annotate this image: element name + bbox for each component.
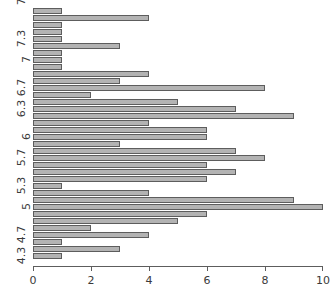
bar <box>33 141 120 147</box>
bar-row <box>33 120 323 126</box>
bar <box>33 85 265 91</box>
bar-row <box>33 71 323 77</box>
bar-row <box>33 169 323 175</box>
bar <box>33 99 178 105</box>
bar-row <box>33 183 323 189</box>
x-tick <box>207 266 208 271</box>
x-tick <box>322 266 323 271</box>
bar <box>33 155 265 161</box>
x-axis-line <box>33 266 323 267</box>
x-tick <box>33 266 34 271</box>
bar-row <box>33 232 323 238</box>
bar-row <box>33 134 323 140</box>
bar <box>33 43 120 49</box>
y-tick-label: 4.3 <box>0 250 30 261</box>
bar-row <box>33 22 323 28</box>
bar-row <box>33 204 323 210</box>
bar <box>33 78 120 84</box>
histogram-chart: 4.34.755.35.766.36.777.37.9 0246810 <box>0 0 336 306</box>
bar <box>33 22 62 28</box>
y-tick-label: 6.3 <box>0 103 30 114</box>
bar-row <box>33 176 323 182</box>
y-tick-label: 7.3 <box>0 33 30 44</box>
bar <box>33 50 62 56</box>
bar <box>33 218 178 224</box>
bar-row <box>33 197 323 203</box>
x-tick-label: 6 <box>204 274 211 287</box>
x-axis: 0246810 <box>33 266 323 306</box>
x-tick <box>91 266 92 271</box>
bar-row <box>33 64 323 70</box>
bar-row <box>33 15 323 21</box>
bar-row <box>33 8 323 14</box>
bar <box>33 197 294 203</box>
bar-row <box>33 239 323 245</box>
bar <box>33 225 91 231</box>
bar <box>33 15 149 21</box>
x-tick-label: 0 <box>30 274 37 287</box>
x-tick <box>149 266 150 271</box>
bar-row <box>33 85 323 91</box>
bar <box>33 134 207 140</box>
bar-row <box>33 106 323 112</box>
bar <box>33 71 149 77</box>
bar <box>33 127 207 133</box>
y-tick-label: 7.9 <box>0 0 30 2</box>
bar <box>33 92 91 98</box>
x-tick-label: 4 <box>146 274 153 287</box>
bar <box>33 169 236 175</box>
x-tick-label: 10 <box>316 274 330 287</box>
bar <box>33 190 149 196</box>
y-tick-label: 5.7 <box>0 152 30 163</box>
bar-row <box>33 99 323 105</box>
bar-row <box>33 162 323 168</box>
bar <box>33 183 62 189</box>
bar-row <box>33 43 323 49</box>
bar-row <box>33 225 323 231</box>
bar-row <box>33 253 323 259</box>
y-axis: 4.34.755.35.766.36.777.37.9 <box>0 0 33 306</box>
bar <box>33 246 120 252</box>
bar-row <box>33 127 323 133</box>
bar-row <box>33 36 323 42</box>
bar-row <box>33 113 323 119</box>
bar-row <box>33 190 323 196</box>
bar <box>33 106 236 112</box>
bar-row <box>33 155 323 161</box>
bar-row <box>33 218 323 224</box>
bar <box>33 253 62 259</box>
y-tick-label: 4.7 <box>0 229 30 240</box>
bar <box>33 232 149 238</box>
bar-row <box>33 50 323 56</box>
bar <box>33 239 62 245</box>
x-tick-label: 2 <box>88 274 95 287</box>
bar <box>33 36 62 42</box>
bar <box>33 204 323 210</box>
bar <box>33 64 62 70</box>
y-tick-label: 5.3 <box>0 180 30 191</box>
bar-row <box>33 92 323 98</box>
bar-row <box>33 29 323 35</box>
bar-row <box>33 57 323 63</box>
bar <box>33 211 207 217</box>
bar-row <box>33 246 323 252</box>
bar-row <box>33 78 323 84</box>
bar-row <box>33 148 323 154</box>
bar <box>33 113 294 119</box>
plot-area <box>33 8 323 260</box>
y-tick-label: 6 <box>0 131 30 142</box>
bar <box>33 29 62 35</box>
x-tick <box>265 266 266 271</box>
x-tick-label: 8 <box>262 274 269 287</box>
bar-row <box>33 211 323 217</box>
bar <box>33 176 207 182</box>
bar <box>33 148 236 154</box>
y-tick-label: 6.7 <box>0 82 30 93</box>
bar <box>33 8 62 14</box>
bar-row <box>33 141 323 147</box>
bar <box>33 120 149 126</box>
y-tick-label: 5 <box>0 201 30 212</box>
y-tick-label: 7 <box>0 54 30 65</box>
bar <box>33 57 62 63</box>
bar <box>33 162 207 168</box>
